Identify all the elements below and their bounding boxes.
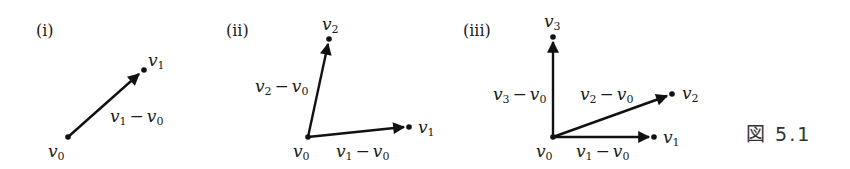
point-v1: [651, 134, 657, 140]
point-v2: [669, 91, 675, 97]
label-v1: v1: [663, 127, 680, 149]
panel-ii: (ii) v0 v2 v1 v2−v0 v1−v0: [226, 14, 435, 163]
point-v3: [550, 34, 556, 40]
vector-v1-minus-v0: [308, 127, 404, 137]
panel-iii: (iii) v0 v3 v2 v1 v3−v0 v2−v0 v1−v0: [463, 11, 699, 163]
label-v0: v0: [293, 141, 310, 163]
label-v0: v0: [536, 141, 553, 163]
label-v2-minus-v0: v2−v0: [255, 76, 308, 98]
point-v1: [141, 67, 147, 73]
vector-v2-minus-v0: [308, 44, 328, 137]
figure-caption: 図 5.1: [746, 123, 811, 145]
label-v2: v2: [322, 14, 339, 36]
label-v1-minus-v0: v1−v0: [336, 141, 389, 163]
label-v2-minus-v0: v2−v0: [580, 84, 633, 106]
vector-v1-minus-v0: [68, 74, 139, 137]
label-v1-minus-v0: v1−v0: [576, 141, 629, 163]
point-v2: [326, 36, 332, 42]
label-v3: v3: [544, 11, 561, 33]
panel-label: (i): [36, 21, 54, 40]
point-v0: [65, 134, 71, 140]
label-v1-minus-v0: v1−v0: [110, 106, 163, 128]
label-v1: v1: [148, 50, 165, 72]
label-v2: v2: [682, 83, 699, 105]
point-v0: [305, 134, 311, 140]
point-v1: [406, 124, 412, 130]
panel-label: (ii): [226, 21, 249, 40]
panel-label: (iii): [463, 21, 491, 40]
label-v1: v1: [418, 117, 435, 139]
label-v0: v0: [48, 141, 65, 163]
panel-i: (i) v0 v1 v1−v0: [36, 21, 165, 163]
point-v0: [550, 134, 556, 140]
figure-5-1: (i) v0 v1 v1−v0 (ii) v0 v2 v1 v2−v0 v1−v…: [0, 0, 850, 169]
label-v3-minus-v0: v3−v0: [493, 84, 546, 106]
